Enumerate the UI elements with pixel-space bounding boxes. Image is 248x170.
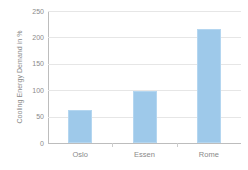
- y-axis-tick-label: 100: [24, 87, 44, 94]
- y-axis-tick-label: 0: [24, 140, 44, 147]
- bar-chart: Cooling Energy Demand in % 0501001502002…: [0, 0, 248, 170]
- x-axis-tick: [177, 143, 178, 147]
- y-axis-tick-label: 250: [24, 8, 44, 15]
- x-axis-category-label: Rome: [179, 150, 239, 160]
- plot-area: [48, 11, 241, 143]
- gridline: [48, 143, 241, 144]
- bar[interactable]: [68, 110, 92, 143]
- y-axis-tick-label: 200: [24, 34, 44, 41]
- bar[interactable]: [197, 29, 221, 143]
- y-axis-tick-label: 50: [24, 113, 44, 120]
- x-axis-category-label: Essen: [115, 150, 175, 160]
- bar[interactable]: [133, 91, 157, 143]
- x-axis-category-label: Oslo: [50, 150, 110, 160]
- x-axis-tick: [112, 143, 113, 147]
- bars: [48, 11, 241, 143]
- y-axis-tick-labels: 050100150200250: [22, 11, 44, 143]
- y-axis-tick-label: 150: [24, 60, 44, 67]
